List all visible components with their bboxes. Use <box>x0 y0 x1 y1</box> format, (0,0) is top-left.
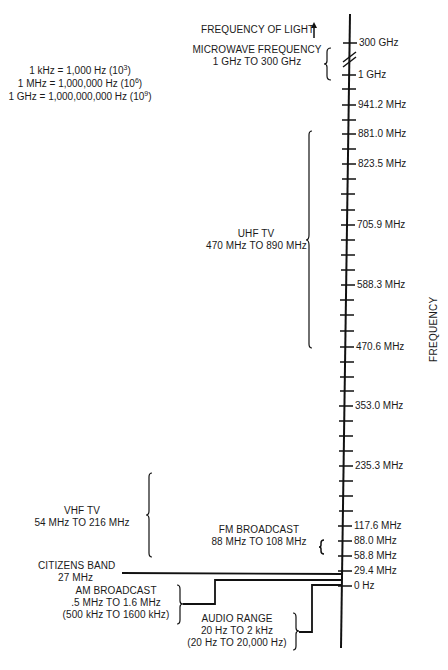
vhf-band-label: VHF TV54 MHz TO 216 MHz <box>20 505 144 529</box>
tick-label: 823.5 MHz <box>358 158 406 170</box>
vhf-brace <box>146 473 152 557</box>
tick-label: 1 GHz <box>358 69 386 81</box>
tick-label: 117.6 MHz <box>354 520 402 532</box>
am-leader <box>183 580 342 604</box>
citizens-band-leader <box>122 573 342 574</box>
tick-label: 588.3 MHz <box>357 279 405 291</box>
microwave-band-label: MICROWAVE FREQUENCY1 GHz TO 300 GHz <box>192 44 322 68</box>
unit-mhz: 1 MHz = 1,000,000 Hz (106) <box>0 77 160 90</box>
fm-band-label: FM BROADCAST88 MHz TO 108 MHz <box>204 524 314 548</box>
unit-ghz: 1 GHz = 1,000,000,000 Hz (109) <box>0 90 160 103</box>
uhf-band-label: UHF TV470 MHz TO 890 MHz <box>206 228 306 252</box>
tick-label: 300 GHz <box>359 37 398 49</box>
microwave-brace <box>324 48 331 80</box>
tick-label: 941.2 MHz <box>358 99 406 111</box>
am-band-label: AM BROADCAST.5 MHz TO 1.6 MHz(500 kHz TO… <box>55 585 177 621</box>
tick-label: 705.9 MHz <box>357 219 405 231</box>
citizens-band-label: CITIZENS BAND27 MHz <box>34 560 124 584</box>
tick-label: 58.8 MHz <box>354 550 397 562</box>
tick-label: 353.0 MHz <box>355 400 403 412</box>
tick-label: 235.3 MHz <box>355 460 403 472</box>
audio-leader <box>299 585 342 632</box>
tick-label: 88.0 MHz <box>354 535 397 547</box>
unit-khz: 1 kHz = 1,000 Hz (103) <box>0 64 160 77</box>
unit-conversions: 1 kHz = 1,000 Hz (103) 1 MHz = 1,000,000… <box>0 64 160 103</box>
tick-label: 470.6 MHz <box>356 341 404 353</box>
fm-brace <box>319 540 324 554</box>
audio-band-label: AUDIO RANGE20 Hz TO 2 kHz(20 Hz TO 20,00… <box>180 613 294 649</box>
tick-label: 0 Hz <box>354 580 375 592</box>
tick-label: 881.0 MHz <box>358 128 406 140</box>
tick-label: 29.4 MHz <box>354 565 397 577</box>
axis-title: FREQUENCY <box>428 297 439 362</box>
frequency-of-light-label: FREQUENCY OF LIGHT <box>201 24 314 36</box>
